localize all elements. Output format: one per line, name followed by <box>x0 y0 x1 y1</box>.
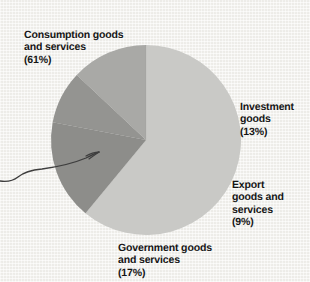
pie-label-investment-text: Investment goods <box>240 101 294 126</box>
pie-label-investment: Investment goods (13%) <box>240 88 310 151</box>
pie-label-export-percent: (9%) <box>232 216 306 229</box>
pie-label-government-text: Government goods and services <box>118 242 212 267</box>
pie-chart-figure: Consumption goods and services (61%) Inv… <box>0 0 310 282</box>
pie-label-consumption: Consumption goods and services (61%) <box>24 16 156 79</box>
pie-label-consumption-percent: (61%) <box>24 54 156 67</box>
pie-label-government: Government goods and services (17%) <box>118 229 242 282</box>
pie-label-export-text: Export goods and services <box>232 179 284 216</box>
pie-label-export: Export goods and services (9%) <box>232 166 306 242</box>
pie-label-investment-percent: (13%) <box>240 126 310 139</box>
pie-label-government-percent: (17%) <box>118 267 242 280</box>
pie-label-consumption-text: Consumption goods and services <box>24 29 124 54</box>
